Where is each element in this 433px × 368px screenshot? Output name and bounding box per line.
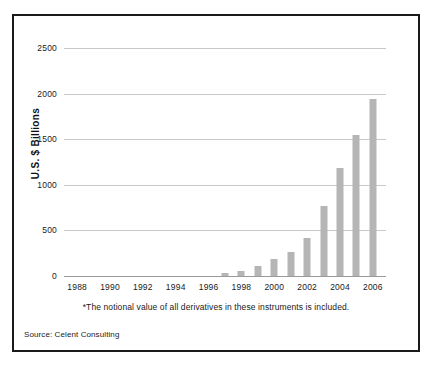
x-tick-label-1998: 1998	[232, 282, 252, 292]
bar-2005	[353, 135, 360, 276]
y-tick-label-1000: 1000	[37, 180, 57, 190]
x-tick-label-1988: 1988	[67, 282, 87, 292]
x-tick-label-2000: 2000	[264, 282, 284, 292]
y-tick-label-1500: 1500	[37, 134, 57, 144]
bar-2001	[287, 252, 294, 276]
x-tick-label-2002: 2002	[297, 282, 317, 292]
x-tick-label-1992: 1992	[133, 282, 153, 292]
chart-footnote: *The notional value of all derivatives i…	[14, 302, 418, 312]
y-tick-label-500: 500	[42, 225, 57, 235]
bar-2003	[320, 206, 327, 276]
bar-2002	[304, 238, 311, 276]
bar-1999	[254, 266, 261, 276]
bar-2006	[369, 99, 376, 276]
y-tick-label-2500: 2500	[37, 43, 57, 53]
bar-2000	[271, 259, 278, 276]
x-axis-ticks: 1988199019921994199619982000200220042006	[64, 276, 386, 292]
bar-series	[64, 48, 386, 276]
chart-source: Source: Celent Consulting	[24, 330, 119, 339]
x-tick-label-1994: 1994	[166, 282, 186, 292]
y-tick-label-0: 0	[52, 271, 57, 281]
x-tick-label-2004: 2004	[330, 282, 350, 292]
plot-area: 05001000150020002500 1988199019921994199…	[64, 48, 386, 276]
x-tick-label-2006: 2006	[363, 282, 383, 292]
chart-figure-frame: U.S. $ Billions 05001000150020002500 198…	[12, 14, 420, 352]
y-tick-label-2000: 2000	[37, 89, 57, 99]
x-tick-label-1996: 1996	[199, 282, 219, 292]
bar-2004	[337, 168, 344, 276]
x-tick-label-1990: 1990	[100, 282, 120, 292]
